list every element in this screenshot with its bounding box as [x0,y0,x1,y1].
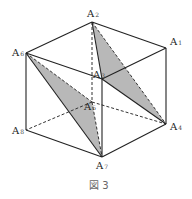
edge-a2-a6 [26,22,92,53]
label-a7: A7 [95,160,108,171]
label-a6: A6 [11,47,24,58]
label-a1: A1 [169,36,182,47]
label-a2: A2 [86,8,99,19]
cube-diagram: A2 A1 A6 A3 A5 A8 A4 A7 図 3 [0,0,192,199]
edge-a7-a4 [102,124,166,157]
figure-caption: 図 3 [89,180,109,191]
label-a4: A4 [169,121,182,132]
label-a8: A8 [11,125,24,136]
